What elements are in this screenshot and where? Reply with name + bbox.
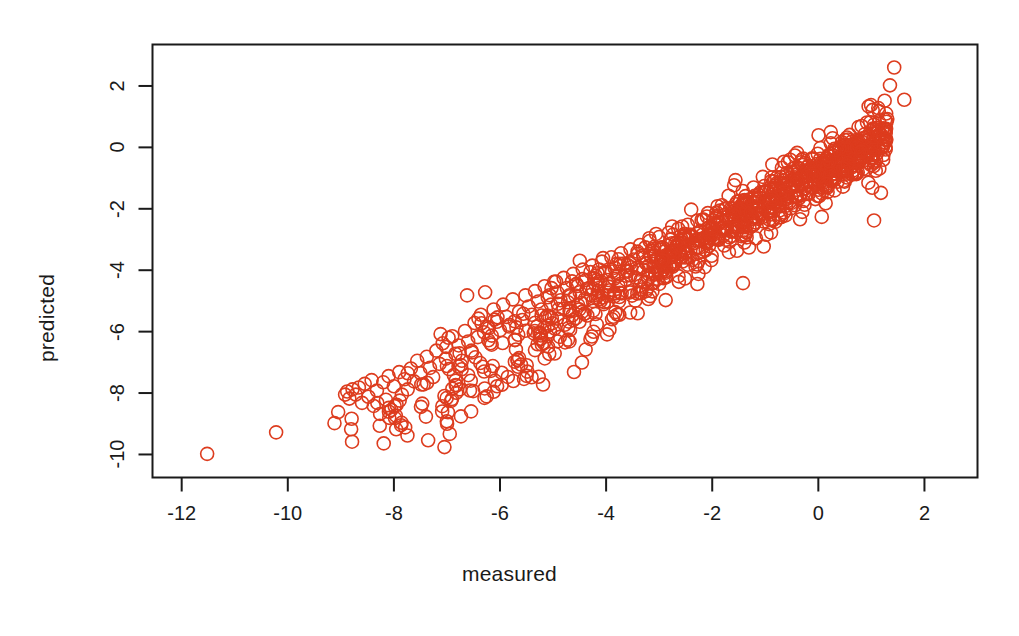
y-tick-label: -6 <box>105 297 129 367</box>
y-axis-title: predicted <box>30 0 64 636</box>
y-tick-label: 0 <box>105 112 129 182</box>
x-tick-label: -6 <box>465 502 535 525</box>
plot-canvas <box>0 0 1019 636</box>
y-tick-label: -8 <box>105 358 129 428</box>
y-tick-label: 2 <box>105 51 129 121</box>
x-tick-label: -12 <box>147 502 217 525</box>
x-axis-title: measured <box>0 562 1019 586</box>
x-tick-label: 2 <box>889 502 959 525</box>
x-tick-label: 0 <box>783 502 853 525</box>
x-tick-label: -2 <box>677 502 747 525</box>
y-tick-label: -2 <box>105 174 129 244</box>
scatter-plot-figure: -12-10-8-6-4-202 20-2-4-6-8-10 measured … <box>0 0 1019 636</box>
x-tick-label: -4 <box>571 502 641 525</box>
x-tick-label: -8 <box>359 502 429 525</box>
y-tick-label: -4 <box>105 235 129 305</box>
x-tick-label: -10 <box>253 502 323 525</box>
y-tick-label: -10 <box>105 419 129 489</box>
